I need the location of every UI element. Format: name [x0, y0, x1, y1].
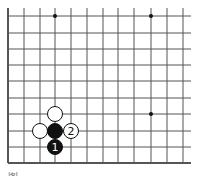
move-number: 1: [52, 141, 59, 154]
go-board: 21: [0, 0, 199, 176]
star-point: [149, 112, 153, 116]
black-stone: [48, 124, 63, 139]
board-grid: [8, 8, 191, 163]
white-stone: 2: [64, 124, 79, 139]
diagram-caption: 图: [8, 172, 18, 176]
move-number: 2: [68, 125, 75, 138]
white-stone: [33, 124, 48, 139]
white-stone: [48, 107, 63, 122]
star-point: [149, 14, 153, 18]
star-point: [53, 14, 57, 18]
black-stone: 1: [48, 140, 63, 155]
